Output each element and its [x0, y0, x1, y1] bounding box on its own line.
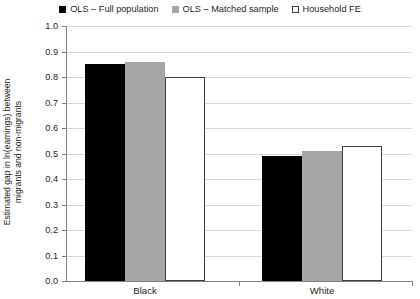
y-axis-tick	[62, 128, 66, 129]
bar-full-population-white	[262, 156, 302, 281]
x-axis-label-white: White	[262, 285, 382, 297]
legend-item-full-population: OLS – Full population	[59, 4, 158, 14]
gridline	[66, 26, 412, 27]
y-axis-tick-label: 0.5	[34, 149, 58, 159]
y-axis-tick	[62, 256, 66, 257]
bar-full-population-black	[85, 64, 125, 281]
y-axis-tick-label: 0.4	[34, 174, 58, 184]
y-axis-title-line2: migrants and non-migrants	[13, 79, 24, 226]
y-axis-tick-label: 0.7	[34, 98, 58, 108]
legend-label-full-population: OLS – Full population	[70, 4, 158, 14]
y-axis-tick-label: 0.3	[34, 200, 58, 210]
legend-label-household-fe: Household FE	[303, 4, 361, 14]
y-axis-tick	[62, 77, 66, 78]
x-axis-group-separator	[239, 281, 240, 286]
x-axis-label-black: Black	[85, 285, 205, 297]
y-axis-tick	[62, 179, 66, 180]
legend-item-household-fe: Household FE	[292, 4, 361, 14]
filled-black-square-icon	[59, 6, 66, 13]
y-axis-title: Estimated gap in ln(earnings) between mi…	[0, 22, 26, 282]
legend-item-matched-sample: OLS – Matched sample	[172, 4, 279, 14]
y-axis-title-line1: Estimated gap in ln(earnings) between	[2, 79, 12, 226]
bar-matched-sample-white	[302, 151, 342, 281]
bar-household-fe-black	[165, 77, 205, 281]
filled-gray-square-icon	[172, 6, 179, 13]
y-axis-tick	[62, 103, 66, 104]
y-axis-tick	[62, 26, 66, 27]
y-axis-tick-label: 0.6	[34, 123, 58, 133]
y-axis-tick-label: 0.9	[34, 47, 58, 57]
y-axis-tick-label: 0.8	[34, 72, 58, 82]
y-axis-line	[66, 26, 67, 282]
x-axis-end-tick	[412, 281, 413, 286]
y-axis-tick-label: 0.0	[34, 276, 58, 286]
gridline	[66, 52, 412, 53]
bar-household-fe-white	[342, 146, 382, 281]
y-axis-tick	[62, 52, 66, 53]
y-axis-tick-label: 1.0	[34, 21, 58, 31]
chart-legend: OLS – Full population OLS – Matched samp…	[0, 0, 420, 18]
bar-matched-sample-black	[125, 62, 165, 281]
y-axis-tick	[62, 154, 66, 155]
y-axis-tick	[62, 205, 66, 206]
y-axis-tick-label: 0.2	[34, 225, 58, 235]
y-axis-tick-label: 0.1	[34, 251, 58, 261]
y-axis-tick	[62, 230, 66, 231]
bar-chart: OLS – Full population OLS – Matched samp…	[0, 0, 420, 299]
outlined-white-square-icon	[292, 6, 299, 13]
legend-label-matched-sample: OLS – Matched sample	[183, 4, 279, 14]
